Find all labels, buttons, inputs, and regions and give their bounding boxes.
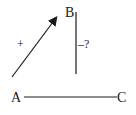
minus-question-label: –? bbox=[78, 38, 89, 50]
node-label-c: C bbox=[117, 91, 126, 105]
node-label-a: A bbox=[11, 91, 21, 105]
node-label-b: B bbox=[65, 6, 74, 20]
plus-sign-label: + bbox=[17, 38, 24, 50]
